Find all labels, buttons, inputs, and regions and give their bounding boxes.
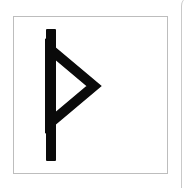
thurisaz-rune-icon (36, 29, 146, 161)
screenshot-root (0, 0, 193, 188)
sheet-edge (181, 0, 193, 188)
glyph-card (13, 16, 168, 174)
glyph-container (14, 17, 167, 173)
